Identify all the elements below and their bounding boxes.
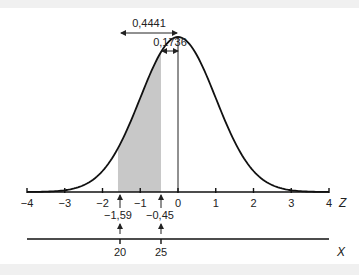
shaded-area [118,52,161,192]
normal-distribution-chart: −4−3−2−101234 Z 0,4441 0,1736 −1,59 −0,4… [0,0,359,275]
marker-label-right: −0,45 [146,209,174,221]
x-axis-label: X [336,245,346,259]
z-tick-label: 0 [175,197,181,209]
z-tick-label: −4 [21,197,34,209]
annotation-0-4441: 0,4441 [132,17,166,29]
z-axis-ticks: −4−3−2−101234 [21,188,332,209]
z-tick-label: 2 [250,197,256,209]
z-tick-label: 1 [213,197,219,209]
z-tick-label: 3 [288,197,294,209]
z-tick-label: −2 [96,197,109,209]
x-tick-label-20: 20 [114,246,126,258]
annotation-0-1736: 0,1736 [153,36,187,48]
marker-label-left: −1,59 [104,209,132,221]
z-tick-label: −1 [134,197,147,209]
z-tick-label: −3 [58,197,71,209]
z-tick-label: 4 [326,197,332,209]
x-tick-label-25: 25 [155,246,167,258]
z-axis-label: Z [338,196,347,210]
